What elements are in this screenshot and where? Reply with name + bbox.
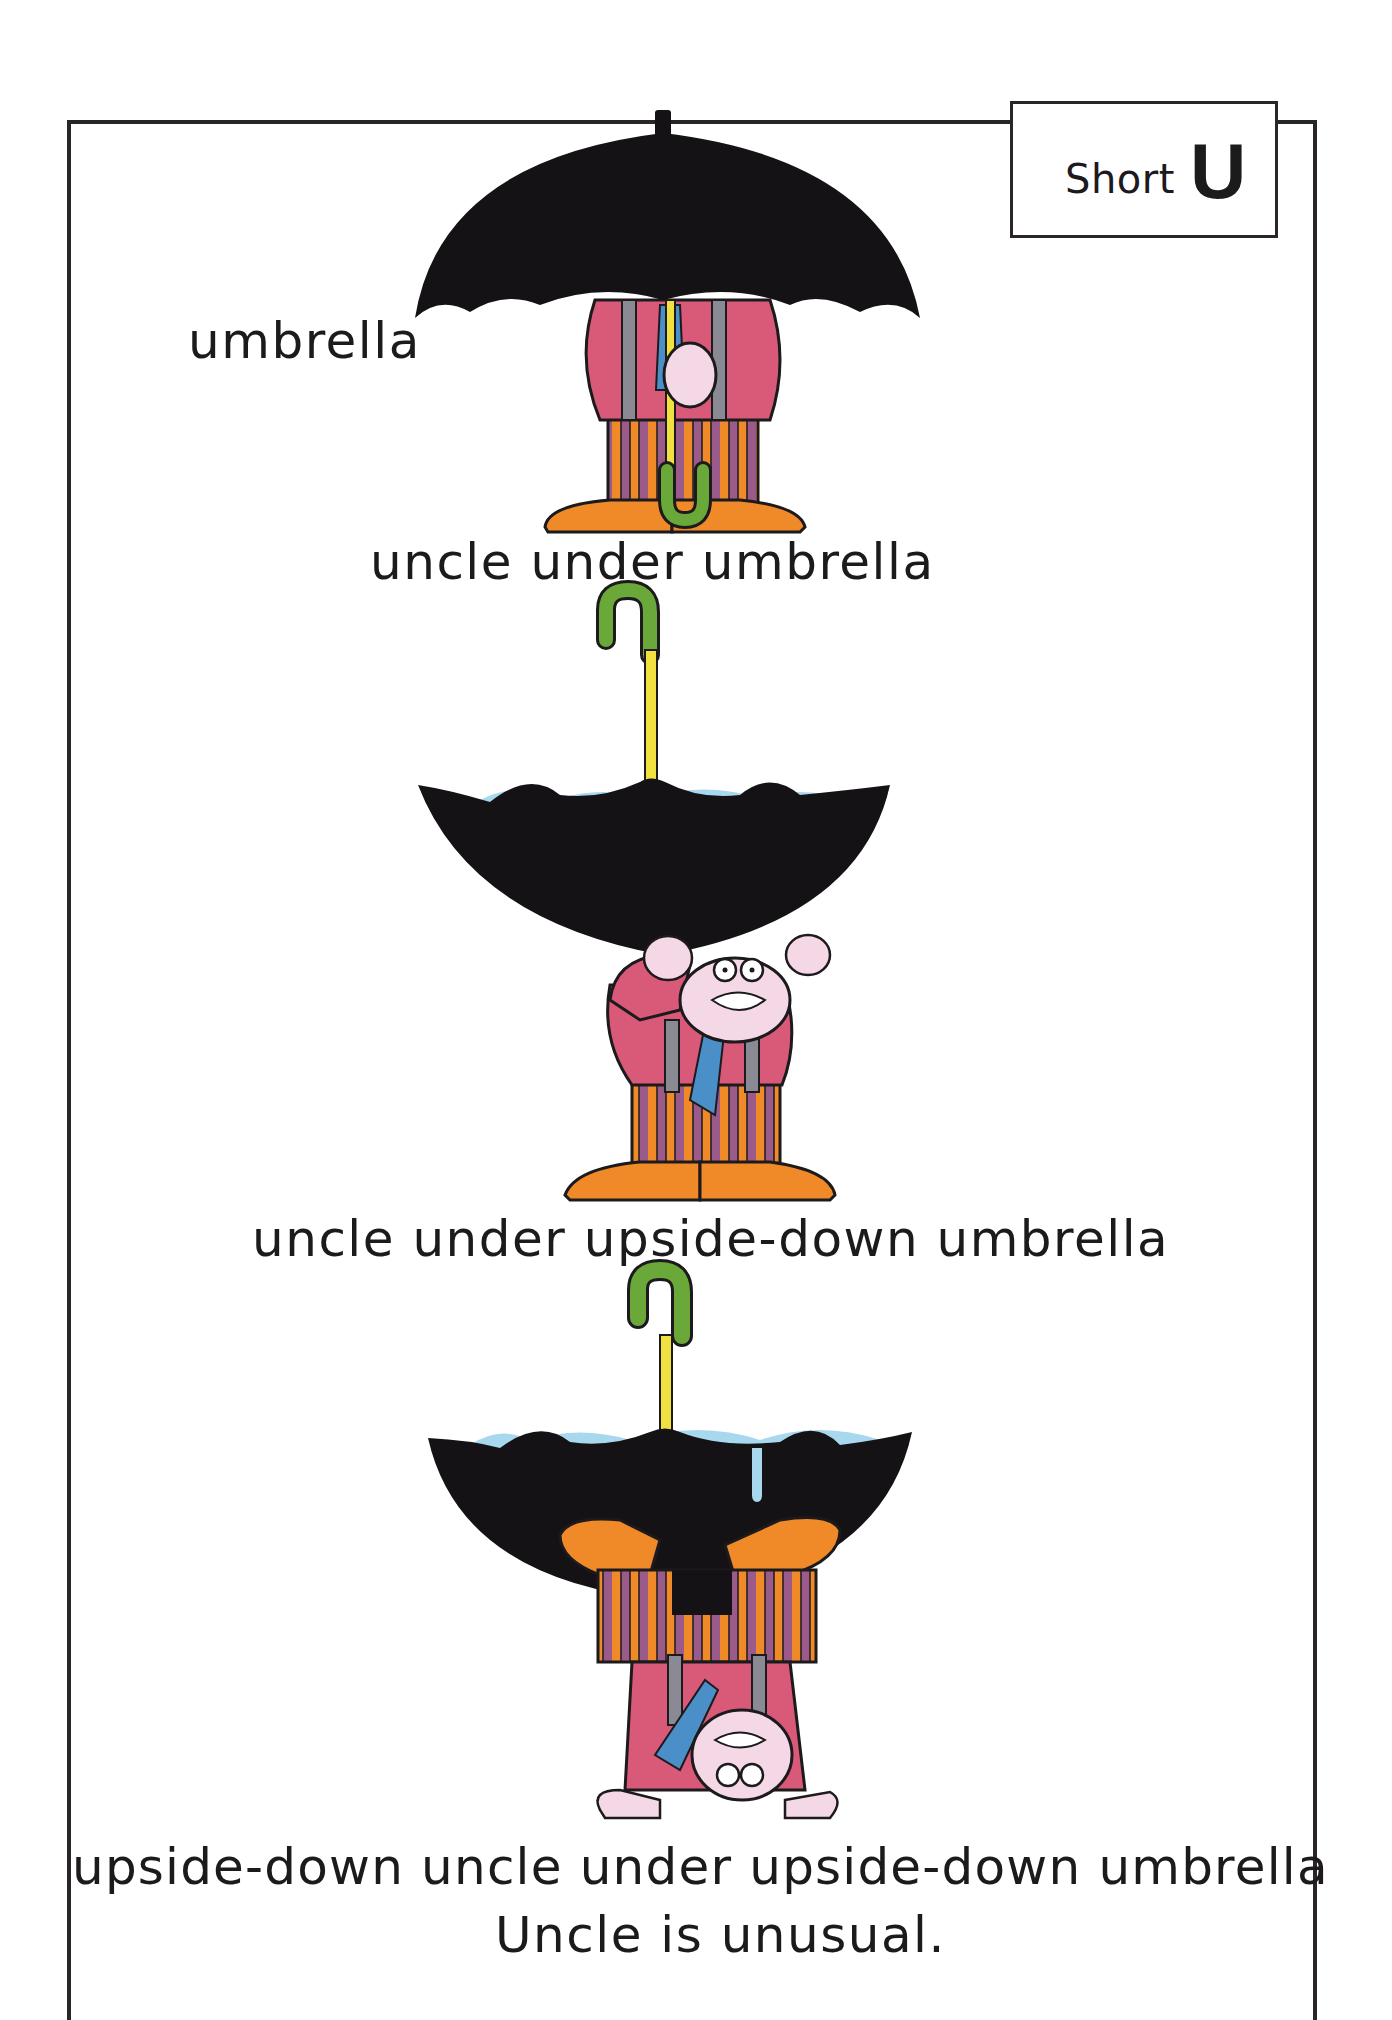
umbrella-canopy bbox=[415, 133, 920, 318]
caption-upside-down-uncle: upside-down uncle under upside-down umbr… bbox=[72, 1842, 1329, 1892]
suspender-left bbox=[665, 1020, 679, 1092]
left-shoe bbox=[565, 1162, 700, 1200]
right-pupil bbox=[750, 968, 755, 973]
canopy-center-overlap bbox=[672, 1570, 732, 1615]
hand bbox=[644, 936, 692, 980]
umbrella-canopy bbox=[418, 779, 890, 956]
umbrella-tip bbox=[655, 110, 671, 138]
umbrella-upright-uncle-illustration bbox=[415, 110, 920, 532]
striped-pants bbox=[608, 410, 758, 510]
uncle-head bbox=[692, 1710, 792, 1800]
caption-umbrella: umbrella bbox=[188, 316, 421, 366]
left-pupil bbox=[723, 968, 728, 973]
right-shoe bbox=[700, 1162, 835, 1200]
left-eye bbox=[717, 1764, 739, 1786]
suspender-left bbox=[622, 300, 636, 420]
umbrella-shaft bbox=[660, 1335, 672, 1435]
suspender-left bbox=[668, 1655, 682, 1725]
caption-uncle-is-unusual: Uncle is unusual. bbox=[495, 1910, 946, 1960]
caption-uncle-under-upside-down-umbrella: uncle under upside-down umbrella bbox=[252, 1214, 1169, 1264]
water-drip bbox=[752, 1448, 762, 1502]
umbrella-shaft bbox=[645, 650, 657, 785]
hand bbox=[664, 343, 716, 407]
hair-tuft bbox=[786, 935, 830, 975]
umbrella-inverted-uncle-illustration bbox=[418, 590, 890, 1200]
right-eye bbox=[741, 1764, 763, 1786]
left-shoe bbox=[545, 500, 672, 532]
right-hand bbox=[785, 1792, 838, 1818]
left-hand bbox=[598, 1790, 661, 1818]
inverted-umbrella-inverted-uncle-illustration bbox=[428, 1270, 912, 1818]
caption-uncle-under-umbrella: uncle under umbrella bbox=[370, 537, 935, 587]
